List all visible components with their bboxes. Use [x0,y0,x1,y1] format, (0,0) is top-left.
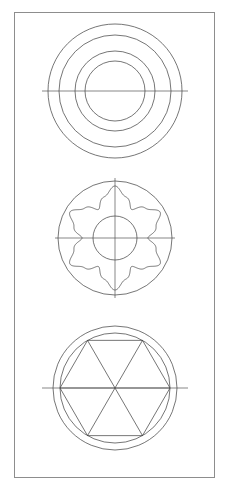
drawing-sheet [0,0,229,492]
radial-spoke [115,340,143,388]
figure-1-concentric-circles [42,24,188,158]
figure-2-lobed-cam [55,178,175,298]
figure-3-hexagon-spokes [42,326,188,450]
radial-spoke [115,388,143,436]
radial-spoke [88,388,116,436]
radial-spoke [88,340,116,388]
drawing-canvas [0,0,229,492]
border-frame [15,13,215,478]
